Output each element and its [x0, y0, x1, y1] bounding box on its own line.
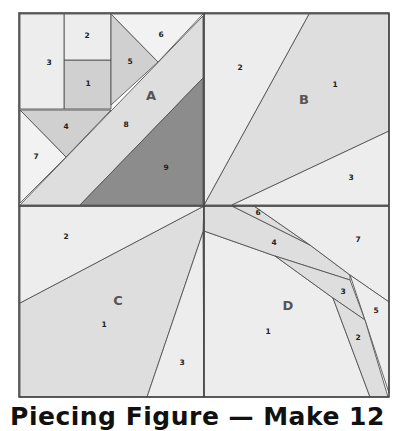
section-label: C: [113, 293, 123, 308]
piece-number: 6: [255, 208, 260, 217]
piece-number: 2: [84, 31, 89, 40]
piece-number: 2: [63, 232, 68, 241]
section-a: [20, 14, 203, 205]
section-c: [20, 206, 204, 397]
piece-number: 3: [179, 358, 184, 367]
figure-caption: Piecing Figure — Make 12: [0, 402, 395, 431]
piece-number: 8: [123, 120, 128, 129]
section-label: A: [146, 88, 156, 103]
piece-number: 1: [101, 320, 106, 329]
piece-number: 3: [348, 173, 353, 182]
section-b: [204, 14, 389, 205]
piece-number: 5: [127, 57, 132, 66]
piece-a3: [20, 14, 64, 109]
piece-number: 2: [237, 63, 242, 72]
piece-number: 1: [332, 80, 337, 89]
piece-number: 1: [85, 79, 90, 88]
piece-number: 1: [265, 327, 270, 336]
section-d: [204, 206, 389, 397]
piece-number: 7: [355, 235, 360, 244]
section-label: D: [283, 298, 294, 313]
piece-number: 6: [158, 30, 163, 39]
piece-number: 4: [271, 238, 276, 247]
piece-number: 7: [33, 152, 38, 161]
piece-number: 5: [373, 306, 378, 315]
piece-number: 3: [340, 287, 345, 296]
section-label: B: [299, 92, 309, 107]
piece-number: 9: [163, 163, 168, 172]
piece-number: 3: [46, 58, 51, 67]
piece-number: 4: [63, 122, 68, 131]
piece-number: 2: [355, 333, 360, 342]
